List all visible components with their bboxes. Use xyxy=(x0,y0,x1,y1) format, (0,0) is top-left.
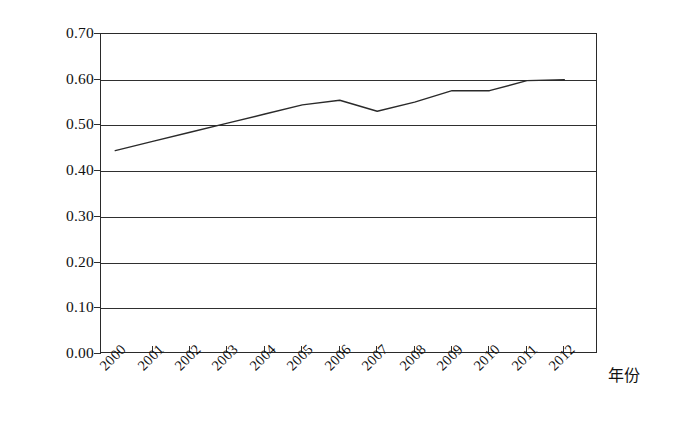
y-tick-label: 0.70 xyxy=(66,25,94,41)
y-tick-label: 0.00 xyxy=(66,345,94,361)
y-tick-mark xyxy=(94,353,101,354)
series-polyline xyxy=(115,80,564,151)
y-axis-tick-labels: 0.700.600.500.400.300.200.100.00 xyxy=(18,0,94,425)
x-axis-title: 年份 xyxy=(608,368,640,384)
y-tick-label: 0.50 xyxy=(66,116,94,132)
y-tick-label: 0.60 xyxy=(66,71,94,87)
y-tick-label: 0.10 xyxy=(66,299,94,315)
y-tick-label: 0.20 xyxy=(66,254,94,270)
line-chart: 0.700.600.500.400.300.200.100.00 2000200… xyxy=(0,0,673,425)
y-tick-label: 0.30 xyxy=(66,208,94,224)
data-series-line xyxy=(101,34,598,354)
y-tick-label: 0.40 xyxy=(66,162,94,178)
plot-area xyxy=(100,33,597,353)
